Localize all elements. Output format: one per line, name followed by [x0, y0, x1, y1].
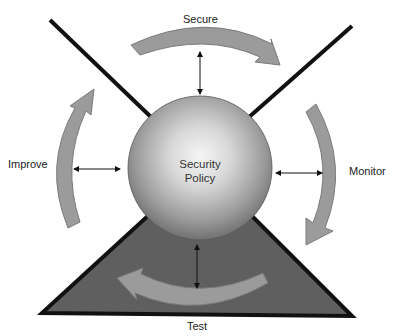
stage-label-improve: Improve — [8, 158, 48, 170]
improve-cycle-arrow-icon — [57, 89, 94, 228]
monitor-cycle-arrow-icon — [306, 104, 336, 245]
center-label: Security Policy — [160, 157, 240, 185]
center-label-line1: Security — [160, 157, 240, 171]
center-label-line2: Policy — [160, 171, 240, 185]
left-divider-line — [50, 20, 152, 118]
stage-label-monitor: Monitor — [349, 165, 386, 177]
stage-label-secure: Secure — [183, 13, 218, 25]
stage-label-test: Test — [187, 320, 207, 332]
secure-cycle-arrow-icon — [131, 27, 280, 65]
